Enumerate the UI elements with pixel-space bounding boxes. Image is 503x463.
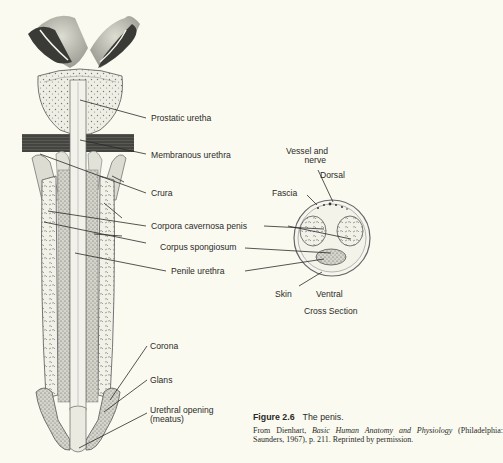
bladder-base	[28, 16, 140, 68]
label-corpora-cavernosa-penis: Corpora cavernosa penis	[151, 222, 247, 231]
figure-title-line: Figure 2.6The penis.	[253, 413, 503, 422]
label-dorsal: Dorsal	[320, 171, 345, 180]
figure-credit: From Dienhart, Basic Human Anatomy and P…	[253, 426, 503, 445]
cross-section-title: Cross Section	[304, 307, 358, 316]
label-ventral: Ventral	[316, 290, 343, 299]
label-penile-urethra: Penile urethra	[171, 267, 225, 276]
credit-prefix: From Dienhart,	[253, 426, 312, 435]
label-crura: Crura	[151, 189, 173, 198]
label-corona: Corona	[150, 342, 178, 351]
label-fascia: Fascia	[272, 189, 297, 198]
label-glans: Glans	[150, 376, 172, 385]
figure-caption: Figure 2.6The penis. From Dienhart, Basi…	[253, 413, 503, 445]
label-vessel-and-nerve: Vessel and nerve	[286, 147, 326, 165]
label-skin: Skin	[275, 290, 292, 299]
label-membranous-urethra: Membranous urethra	[151, 151, 231, 160]
credit-book-title: Basic Human Anatomy and Physiology	[312, 426, 452, 435]
label-urethral-opening: Urethral opening (meatus)	[150, 406, 214, 424]
figure-number: Figure 2.6	[253, 412, 295, 422]
cross-section-diagram	[294, 200, 370, 276]
penile-shaft	[42, 80, 115, 410]
figure-title: The penis.	[303, 412, 344, 422]
label-prostatic-urethra: Prostatic uretha	[151, 114, 211, 123]
label-corpus-spongiosum: Corpus spongiosum	[160, 243, 236, 252]
